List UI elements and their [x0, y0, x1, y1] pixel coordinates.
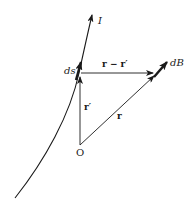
diagram-canvas: I ds r − r′ dB r′ r O	[0, 0, 190, 206]
r-label: r	[117, 112, 122, 121]
origin-label: O	[76, 148, 84, 158]
r-minus-r-prime-label: r − r′	[102, 60, 128, 69]
diagram-svg	[0, 0, 190, 206]
r-prime-label: r′	[84, 103, 91, 112]
dB-label: dB	[170, 58, 184, 68]
dB-arrow	[154, 62, 167, 77]
ds-label: ds	[64, 66, 76, 76]
current-label: I	[98, 16, 102, 26]
